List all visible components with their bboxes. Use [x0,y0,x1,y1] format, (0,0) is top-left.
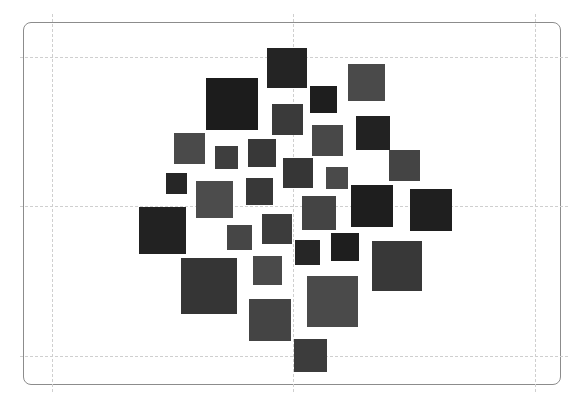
square-shape[interactable] [166,173,187,194]
square-shape[interactable] [249,299,291,341]
square-shape[interactable] [326,167,348,189]
square-shape[interactable] [294,339,327,372]
guide-vertical [535,14,536,392]
square-shape[interactable] [267,48,307,88]
square-shape[interactable] [262,214,292,244]
square-shape[interactable] [356,116,390,150]
square-shape[interactable] [227,225,252,250]
square-shape[interactable] [372,241,422,291]
square-shape[interactable] [302,196,336,230]
guide-vertical [52,14,53,392]
square-shape[interactable] [253,256,282,285]
square-shape[interactable] [196,181,233,218]
square-shape[interactable] [410,189,452,231]
square-shape[interactable] [206,78,258,130]
square-shape[interactable] [246,178,273,205]
square-shape[interactable] [331,233,359,261]
square-shape[interactable] [310,86,337,113]
square-shape[interactable] [348,64,385,101]
square-shape[interactable] [248,139,276,167]
square-shape[interactable] [174,133,205,164]
square-shape[interactable] [139,207,186,254]
square-shape[interactable] [283,158,313,188]
square-shape[interactable] [312,125,343,156]
square-shape[interactable] [181,258,237,314]
guide-horizontal [20,206,568,207]
square-shape[interactable] [272,104,303,135]
square-shape[interactable] [307,276,358,327]
square-shape[interactable] [351,185,393,227]
square-shape[interactable] [295,240,320,265]
square-shape[interactable] [389,150,420,181]
square-shape[interactable] [215,146,238,169]
